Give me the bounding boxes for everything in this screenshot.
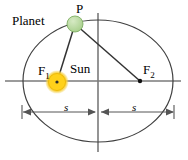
sun-label: Sun: [70, 62, 90, 75]
focus2-point: [138, 79, 142, 83]
dimension-right: [101, 105, 174, 119]
focus1-label: F1: [38, 64, 50, 81]
dimension-right-arrow-start: [101, 109, 109, 116]
dimension-right-arrow-end: [166, 109, 174, 116]
semi-major-right-label: s: [132, 102, 136, 113]
dimension-left-arrow-end: [88, 109, 96, 116]
planet-body: [67, 16, 83, 32]
focus2-label: F2: [143, 63, 155, 80]
dimension-left: [22, 105, 96, 119]
dimension-left-arrow-start: [23, 109, 31, 116]
focus1-subscript: 1: [45, 71, 50, 81]
orbit-diagram: Planet P Sun F1 F2 s s: [0, 0, 188, 160]
semi-major-left-label: s: [64, 102, 68, 113]
focus2-subscript: 2: [150, 70, 155, 80]
point-p-label: P: [76, 2, 83, 15]
planet-label: Planet: [12, 14, 45, 27]
focus1-point: [55, 80, 58, 83]
